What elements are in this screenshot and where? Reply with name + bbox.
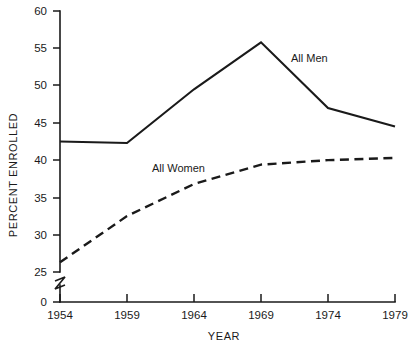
y-tick-label-50: 50: [34, 79, 47, 91]
y-tick-group: [53, 11, 60, 302]
x-axis-title: YEAR: [208, 330, 240, 342]
chart-container: PERCENT ENROLLED 60 55 50 45 40 35 30 25…: [0, 0, 415, 345]
x-tick-label-1969: 1969: [248, 309, 274, 321]
y-tick-label-0: 0: [41, 296, 47, 308]
x-tick-label-1974: 1974: [315, 309, 341, 321]
x-tick-label-1979: 1979: [382, 309, 408, 321]
series-annotation-all-women: All Women: [152, 162, 205, 174]
x-tick-label-1964: 1964: [181, 309, 207, 321]
line-chart: PERCENT ENROLLED 60 55 50 45 40 35 30 25…: [0, 0, 415, 345]
x-tick-label-1954: 1954: [47, 309, 73, 321]
y-tick-label-30: 30: [34, 229, 47, 241]
series-line-all-women: [60, 158, 395, 262]
y-tick-label-25: 25: [34, 266, 47, 278]
y-tick-label-40: 40: [34, 154, 47, 166]
series-line-all-men: [60, 42, 395, 143]
y-tick-label-35: 35: [34, 192, 47, 204]
x-tick-label-1959: 1959: [114, 309, 140, 321]
y-axis-title: PERCENT ENROLLED: [7, 113, 19, 237]
y-tick-label-55: 55: [34, 42, 47, 54]
x-tick-group: [60, 294, 395, 302]
series-annotation-all-men: All Men: [291, 52, 328, 64]
y-axis-break-icon: [55, 277, 65, 289]
y-tick-label-45: 45: [34, 117, 47, 129]
y-tick-label-60: 60: [34, 5, 47, 17]
